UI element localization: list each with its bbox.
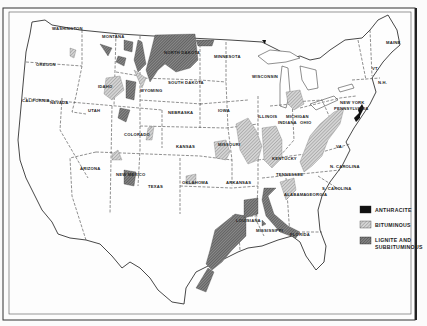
svg-text:VA.: VA. [336,144,343,149]
svg-text:NEBRASKA: NEBRASKA [168,110,193,115]
svg-text:NEW YORK: NEW YORK [340,100,365,105]
legend-label-bituminous: BITUMINOUS [375,222,411,228]
svg-text:MICHIGAN: MICHIGAN [286,114,309,119]
svg-text:NEW MEXICO: NEW MEXICO [116,172,146,177]
svg-text:KENTUCKY: KENTUCKY [272,156,297,161]
svg-text:WYOMING: WYOMING [140,88,162,93]
legend-label-lignite-1: LIGNITE AND [375,237,411,243]
svg-text:ALABAMA: ALABAMA [284,192,307,197]
svg-text:GEORGIA: GEORGIA [306,192,327,197]
svg-text:IOWA: IOWA [218,108,230,113]
svg-text:ILLINOIS: ILLINOIS [258,114,277,119]
svg-text:NEVADA: NEVADA [50,100,69,105]
svg-text:MISSISSIPPI: MISSISSIPPI [256,228,283,233]
svg-text:IDAHO: IDAHO [98,84,113,89]
svg-text:WASHINGTON: WASHINGTON [52,26,83,31]
svg-text:INDIANA: INDIANA [278,120,297,125]
legend-label-lignite-2: SUBBITUMINOUS [375,244,423,250]
legend-swatch-anthracite [360,206,371,213]
svg-text:OKLAHOMA: OKLAHOMA [182,180,208,185]
svg-text:ARKANSAS: ARKANSAS [226,180,251,185]
svg-text:KANSAS: KANSAS [176,144,195,149]
svg-text:WISCONSIN: WISCONSIN [252,74,278,79]
svg-text:MISSOURI: MISSOURI [218,142,240,147]
legend-label-anthracite: ANTHRACITE [375,207,412,213]
svg-text:OHIO: OHIO [300,120,312,125]
svg-text:CALIFORNIA: CALIFORNIA [22,98,50,103]
map-frame: WASHINGTON OREGON CALIFORNIA NEVADA IDAH… [0,0,427,326]
svg-text:NORTH DAKOTA: NORTH DAKOTA [164,50,200,55]
svg-text:N.H.: N.H. [378,80,387,85]
svg-text:ARIZONA: ARIZONA [80,166,100,171]
svg-text:MINNESOTA: MINNESOTA [214,54,241,59]
svg-text:S. CAROLINA: S. CAROLINA [322,186,351,191]
coal-fields-map: WASHINGTON OREGON CALIFORNIA NEVADA IDAH… [0,0,427,326]
svg-text:VT.: VT. [372,66,379,71]
svg-text:PENNSYLVANIA: PENNSYLVANIA [334,106,369,111]
legend-swatch-lignite [360,237,371,244]
svg-text:LOUISIANA: LOUISIANA [236,218,261,223]
svg-text:FLORIDA: FLORIDA [290,232,310,237]
svg-text:MAINE: MAINE [386,40,401,45]
svg-text:MONTANA: MONTANA [102,34,125,39]
svg-text:COLORADO: COLORADO [124,132,151,137]
svg-text:N. CAROLINA: N. CAROLINA [330,164,360,169]
svg-text:TENNESSEE: TENNESSEE [276,172,303,177]
svg-text:OREGON: OREGON [36,62,56,67]
svg-text:SOUTH DAKOTA: SOUTH DAKOTA [168,80,204,85]
svg-text:UTAH: UTAH [88,108,100,113]
svg-text:TEXAS: TEXAS [148,184,163,189]
legend-swatch-bituminous [360,221,371,228]
